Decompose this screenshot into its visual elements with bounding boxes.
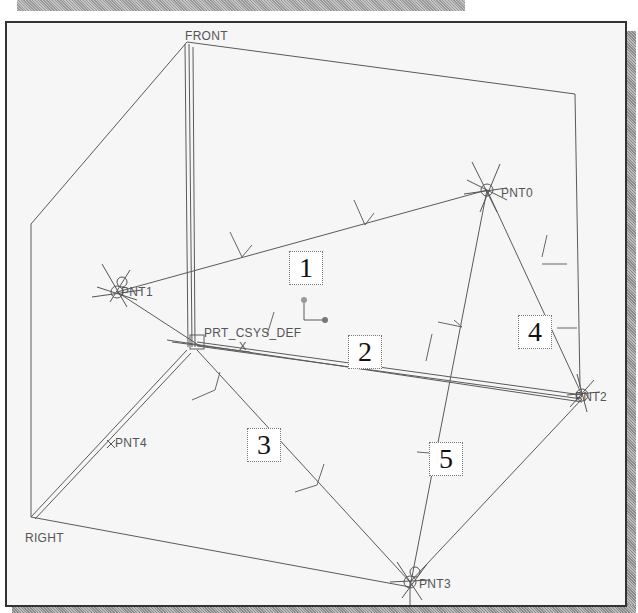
front-plane-label[interactable]: FRONT — [185, 30, 228, 42]
top-banner — [17, 0, 465, 11]
csys-axis-dot — [322, 317, 328, 323]
datum-point-markers[interactable] — [92, 162, 600, 600]
pnt4-marker — [107, 440, 115, 448]
csys-origin-dot — [301, 297, 307, 303]
callout-3: 3 — [247, 428, 281, 462]
callout-number: 3 — [257, 429, 271, 461]
graphics-viewport[interactable]: FRONT RIGHT PRT_CSYS_DEF X PNT0 PNT1 PNT… — [5, 21, 627, 607]
pnt3-label[interactable]: PNT3 — [419, 578, 451, 590]
pnt1-label[interactable]: PNT1 — [121, 286, 153, 298]
pnt2-label[interactable]: PNT2 — [575, 391, 607, 403]
right-plane-label[interactable]: RIGHT — [25, 532, 64, 544]
callout-number: 4 — [528, 316, 542, 348]
csys-x-axis-label: X — [239, 341, 247, 352]
frame-shadow — [626, 31, 636, 609]
callout-4: 4 — [518, 315, 552, 349]
callout-number: 2 — [358, 336, 372, 368]
callout-1: 1 — [289, 251, 323, 285]
right-datum-plane[interactable] — [31, 350, 410, 587]
callout-number: 1 — [299, 252, 313, 284]
csys-label[interactable]: PRT_CSYS_DEF — [204, 327, 301, 339]
pnt4-label[interactable]: PNT4 — [115, 437, 147, 449]
callout-2: 2 — [348, 335, 382, 369]
callout-number: 5 — [439, 443, 453, 475]
callout-5: 5 — [429, 442, 463, 476]
pnt0-label[interactable]: PNT0 — [501, 187, 533, 199]
model-geometry — [7, 23, 625, 605]
